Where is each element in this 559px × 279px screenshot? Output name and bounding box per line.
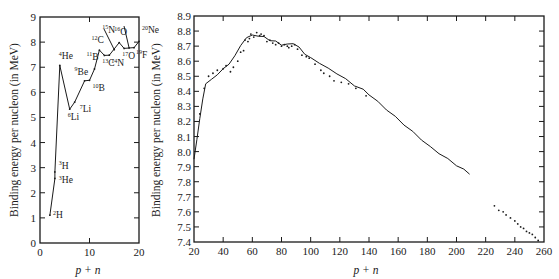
data-point bbox=[301, 54, 303, 56]
y-tick-label: 7.8 bbox=[177, 176, 191, 188]
right-ticks: 7.47.57.67.77.87.98.08.18.28.38.48.58.68… bbox=[177, 10, 553, 257]
y-tick-label: 9 bbox=[31, 11, 37, 23]
x-tick-label: 140 bbox=[361, 245, 378, 257]
y-tick-label: 2 bbox=[31, 187, 37, 199]
data-point bbox=[249, 38, 251, 40]
data-point bbox=[505, 214, 507, 216]
nuclide-point bbox=[118, 42, 120, 44]
x-tick-label: 10 bbox=[84, 246, 96, 258]
x-tick-label: 240 bbox=[507, 245, 524, 257]
data-point bbox=[259, 35, 261, 37]
data-point bbox=[520, 226, 522, 228]
y-tick-label: 8.2 bbox=[177, 115, 191, 127]
data-point bbox=[284, 44, 286, 46]
data-point bbox=[297, 48, 299, 50]
nuclide-point bbox=[54, 171, 56, 173]
nuclide-point bbox=[133, 47, 135, 49]
data-point bbox=[230, 71, 232, 73]
nuclide-point bbox=[69, 108, 71, 110]
y-tick-label: 7.9 bbox=[177, 161, 191, 173]
y-tick-label: 7.6 bbox=[177, 206, 191, 218]
data-point bbox=[291, 45, 293, 47]
y-tick-label: 8.7 bbox=[177, 40, 191, 52]
data-point bbox=[510, 217, 512, 219]
data-point bbox=[203, 87, 205, 89]
nuclide-point bbox=[74, 101, 76, 103]
y-tick-label: 4 bbox=[31, 137, 37, 149]
nuclide-label-4He: 4He bbox=[59, 51, 73, 62]
data-point bbox=[286, 45, 288, 47]
nuclide-point bbox=[84, 80, 86, 82]
y-tick-label: 8 bbox=[31, 36, 37, 48]
data-point bbox=[529, 232, 531, 234]
data-point bbox=[269, 39, 271, 41]
binding-energy-curve bbox=[194, 35, 470, 174]
nuclide-label-16O: 16O bbox=[114, 26, 127, 37]
data-point bbox=[212, 72, 214, 74]
data-point bbox=[256, 32, 258, 34]
data-point bbox=[232, 66, 234, 68]
nuclide-point bbox=[89, 79, 91, 81]
data-point bbox=[278, 42, 280, 44]
y-tick-label: 7.7 bbox=[177, 191, 191, 203]
data-point bbox=[250, 33, 252, 35]
data-point bbox=[320, 69, 322, 71]
y-tick-label: 7.5 bbox=[177, 221, 191, 233]
nuclide-label-10B: 10B bbox=[93, 83, 105, 94]
nuclide-point bbox=[128, 47, 130, 49]
data-point bbox=[514, 220, 516, 222]
nuclide-point bbox=[108, 54, 110, 56]
data-point bbox=[244, 39, 246, 41]
data-point bbox=[494, 205, 496, 207]
x-tick-label: 20 bbox=[134, 246, 146, 258]
nuclide-label-3He: 3He bbox=[59, 175, 73, 186]
x-tick-label: 200 bbox=[448, 245, 465, 257]
nuclide-label-11B: 11B bbox=[86, 51, 98, 62]
data-point bbox=[498, 209, 500, 211]
nuclide-point bbox=[59, 65, 61, 67]
data-point bbox=[323, 72, 325, 74]
x-tick-label: 100 bbox=[302, 245, 319, 257]
data-point bbox=[222, 68, 224, 70]
data-point bbox=[243, 50, 245, 52]
y-tick-label: 3 bbox=[31, 162, 37, 174]
data-point bbox=[216, 69, 218, 71]
y-tick-label: 0 bbox=[31, 237, 37, 249]
x-tick-label: 0 bbox=[37, 246, 43, 258]
data-point bbox=[281, 45, 283, 47]
data-point bbox=[272, 42, 274, 44]
data-point bbox=[365, 95, 367, 97]
x-tick-label: 40 bbox=[218, 245, 230, 257]
data-point bbox=[275, 44, 277, 46]
y-tick-label: 8.0 bbox=[177, 146, 191, 158]
data-point bbox=[208, 75, 210, 77]
data-point bbox=[531, 234, 533, 236]
left-x-axis-label: p + n bbox=[74, 264, 100, 277]
nuclide-point bbox=[138, 40, 140, 42]
x-tick-label: 260 bbox=[536, 245, 553, 257]
right-plot-frame bbox=[194, 16, 544, 242]
nuclide-label-19F: 19F bbox=[136, 49, 147, 60]
data-point bbox=[288, 47, 290, 49]
binding-energy-line bbox=[50, 41, 139, 215]
nuclide-point bbox=[113, 49, 115, 51]
data-point bbox=[517, 223, 519, 225]
x-tick-label: 120 bbox=[332, 245, 349, 257]
data-point bbox=[199, 113, 201, 115]
data-point bbox=[260, 33, 262, 35]
data-point bbox=[314, 63, 316, 65]
x-tick-label: 160 bbox=[390, 245, 407, 257]
nuclide-label-9Be: 9Be bbox=[75, 66, 89, 77]
data-point bbox=[308, 57, 310, 59]
data-point bbox=[240, 51, 242, 53]
nuclide-point bbox=[99, 49, 101, 51]
x-tick-label: 220 bbox=[477, 245, 494, 257]
x-tick-label: 80 bbox=[276, 245, 288, 257]
nuclide-point bbox=[94, 68, 96, 70]
y-tick-label: 8.5 bbox=[177, 70, 191, 82]
data-point bbox=[502, 211, 504, 213]
nuclide-label-2H: 2H bbox=[53, 210, 63, 221]
left-chart: 012345678901020 2H3He3H4He6Li7Li9Be10B11… bbox=[8, 0, 159, 277]
data-point bbox=[340, 81, 342, 83]
nuclide-point bbox=[103, 55, 105, 57]
